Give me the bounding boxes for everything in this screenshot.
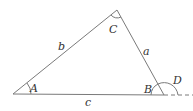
side-label-a: a bbox=[143, 45, 150, 58]
vertex-label-c: C bbox=[109, 23, 118, 36]
vertex-label-a: A bbox=[29, 82, 38, 95]
exterior-angle-label-d: D bbox=[172, 74, 182, 87]
side-label-c: c bbox=[85, 96, 91, 109]
triangle-diagram: A B C D b a c bbox=[0, 0, 193, 111]
side-a bbox=[117, 10, 164, 95]
vertex-label-b: B bbox=[143, 83, 152, 96]
side-label-b: b bbox=[58, 40, 65, 53]
